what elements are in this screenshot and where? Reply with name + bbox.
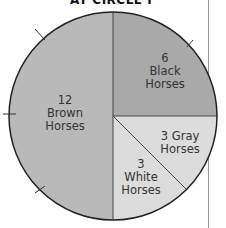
label-white: 3 White Horses [116,158,166,197]
black-suffix: Horses [130,78,200,91]
label-brown: 12 Brown Horses [35,94,95,133]
brown-suffix: Horses [35,120,95,133]
white-suffix: Horses [116,184,166,197]
label-black: 6 Black Horses [130,52,200,91]
pie-chart [0,0,226,228]
gray-suffix: Horses [152,143,208,156]
label-gray: 3 Gray Horses [152,130,208,156]
